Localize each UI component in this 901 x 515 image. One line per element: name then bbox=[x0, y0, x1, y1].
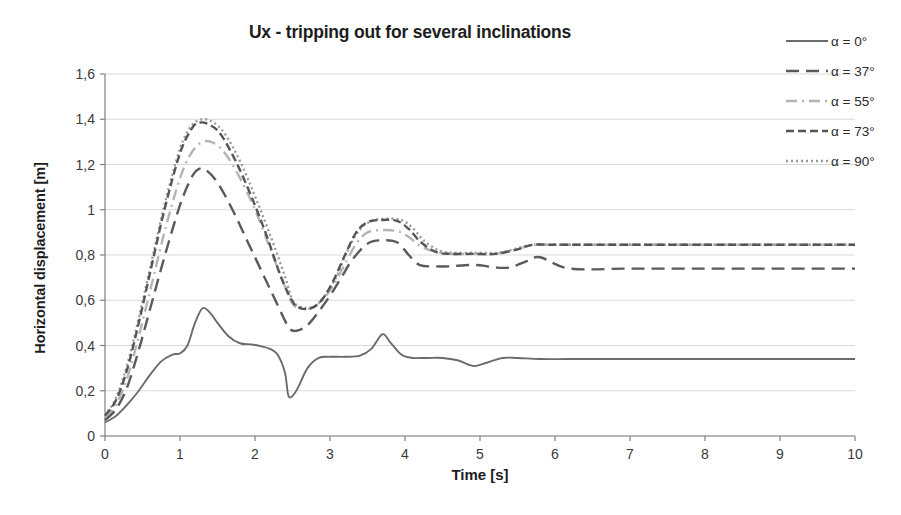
y-tick-label-4: 0,8 bbox=[51, 247, 95, 263]
y-tick-label-0: 0 bbox=[51, 428, 95, 444]
y-axis-label: Horizontal displacement [m] bbox=[32, 108, 48, 408]
y-tick-label-5: 1 bbox=[51, 202, 95, 218]
chart-title: Ux - tripping out for several inclinatio… bbox=[130, 22, 690, 43]
plot-area bbox=[105, 74, 855, 436]
chart-figure: Ux - tripping out for several inclinatio… bbox=[0, 0, 901, 515]
legend-label: α = 37° bbox=[828, 64, 875, 79]
y-tick-label-1: 0,2 bbox=[51, 383, 95, 399]
series-line-55deg bbox=[105, 141, 855, 418]
x-tick-label-6: 6 bbox=[535, 446, 575, 462]
legend-label: α = 0° bbox=[828, 34, 867, 49]
x-tick-label-10: 10 bbox=[835, 446, 875, 462]
legend-item-0deg[interactable]: α = 0° bbox=[786, 26, 901, 56]
legend-item-55deg[interactable]: α = 55° bbox=[786, 86, 901, 116]
y-tick-label-8: 1,6 bbox=[51, 66, 95, 82]
legend: α = 0°α = 37°α = 55°α = 73°α = 90° bbox=[786, 26, 901, 176]
x-tick-label-3: 3 bbox=[310, 446, 350, 462]
x-tick-label-1: 1 bbox=[160, 446, 200, 462]
legend-item-90deg[interactable]: α = 90° bbox=[786, 146, 901, 176]
y-tick-label-2: 0,4 bbox=[51, 338, 95, 354]
plot-svg bbox=[105, 74, 855, 436]
x-tick-label-7: 7 bbox=[610, 446, 650, 462]
legend-item-37deg[interactable]: α = 37° bbox=[786, 56, 901, 86]
legend-line-longdash bbox=[786, 65, 828, 77]
x-axis-label: Time [s] bbox=[105, 466, 855, 483]
y-tick-label-7: 1,4 bbox=[51, 111, 95, 127]
legend-item-73deg[interactable]: α = 73° bbox=[786, 116, 901, 146]
x-tick-label-0: 0 bbox=[85, 446, 125, 462]
legend-line-dash bbox=[786, 125, 828, 137]
x-tick-label-4: 4 bbox=[385, 446, 425, 462]
legend-line-dotted bbox=[786, 155, 828, 167]
legend-label: α = 90° bbox=[828, 154, 875, 169]
series-line-0deg bbox=[105, 308, 855, 423]
legend-line-solid bbox=[786, 35, 828, 47]
y-tick-label-3: 0,6 bbox=[51, 292, 95, 308]
legend-line-dashdot bbox=[786, 95, 828, 107]
axis-ticks bbox=[100, 74, 855, 441]
x-tick-label-5: 5 bbox=[460, 446, 500, 462]
x-tick-label-2: 2 bbox=[235, 446, 275, 462]
legend-label: α = 55° bbox=[828, 94, 875, 109]
legend-label: α = 73° bbox=[828, 124, 875, 139]
x-tick-label-8: 8 bbox=[685, 446, 725, 462]
series-line-37deg bbox=[105, 168, 855, 420]
y-tick-label-6: 1,2 bbox=[51, 157, 95, 173]
x-tick-label-9: 9 bbox=[760, 446, 800, 462]
